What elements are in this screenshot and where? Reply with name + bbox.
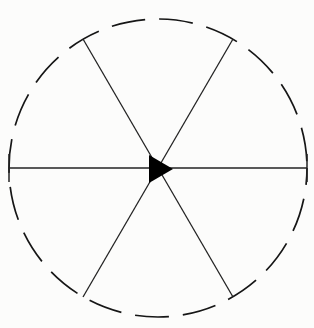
spoke-southwest <box>83 168 158 297</box>
figure-canvas <box>0 0 314 328</box>
wheel-diagram-svg <box>0 0 314 328</box>
center-arrowhead-icon <box>149 155 173 183</box>
spoke-northwest <box>83 39 158 168</box>
spoke-southeast <box>158 168 233 297</box>
spoke-northeast <box>158 39 233 168</box>
